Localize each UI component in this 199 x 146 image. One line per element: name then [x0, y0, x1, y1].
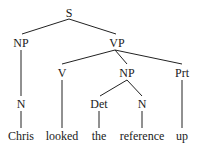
node-v: V: [58, 66, 67, 80]
node-np-object: NP: [119, 66, 135, 80]
node-n-object: N: [138, 97, 147, 111]
edge-vp-v: [62, 50, 115, 64]
word-looked: looked: [46, 129, 79, 143]
word-the: the: [92, 129, 107, 143]
edge-np-det: [100, 80, 127, 96]
edge-np-n: [127, 80, 142, 96]
node-s: S: [66, 6, 73, 20]
edge-s-vp: [69, 19, 116, 34]
edge-s-np: [22, 19, 69, 34]
word-up: up: [176, 129, 188, 143]
node-np-subject: NP: [13, 36, 29, 50]
word-chris: Chris: [8, 129, 34, 143]
tree-edges: [21, 19, 182, 128]
node-n-subject: N: [17, 97, 26, 111]
node-vp: VP: [109, 36, 125, 50]
node-prt: Prt: [175, 66, 190, 80]
syntax-tree: S NP VP N V NP Prt Det N Chris looked th…: [0, 0, 199, 146]
tree-words: Chris looked the reference up: [8, 129, 188, 143]
word-reference: reference: [120, 129, 165, 143]
node-det: Det: [90, 97, 108, 111]
